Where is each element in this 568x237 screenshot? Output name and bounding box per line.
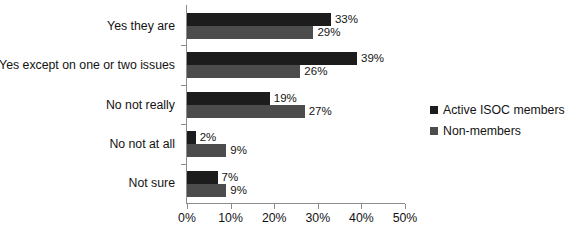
bar — [187, 92, 270, 105]
x-axis-tick — [187, 204, 188, 209]
y-axis-tick — [181, 164, 187, 165]
y-axis-label: Yes except on one or two issues — [0, 57, 175, 73]
x-axis-line — [186, 203, 405, 204]
y-axis-label: Yes they are — [107, 18, 175, 34]
bar — [187, 171, 218, 184]
bar-group: 2%9% — [187, 124, 405, 163]
legend-item: Non-members — [430, 120, 565, 141]
y-axis-label: Not sure — [129, 175, 175, 191]
bar-group: 39%26% — [187, 45, 405, 84]
bar — [187, 13, 331, 26]
bar — [187, 184, 226, 197]
x-axis-tick — [231, 204, 232, 209]
x-axis-tick — [405, 204, 406, 209]
bar-group: 33%29% — [187, 6, 405, 45]
bar-value-label: 9% — [230, 142, 247, 158]
x-axis-tick — [318, 204, 319, 209]
bar-group: 7%9% — [187, 164, 405, 203]
plot-area: 33%29%39%26%19%27%2%9%7%9% — [187, 6, 405, 203]
bar-value-label: 19% — [274, 90, 297, 106]
x-axis-label: 40% — [349, 211, 374, 225]
y-axis-tick — [181, 124, 187, 125]
chart-legend: Active ISOC membersNon-members — [430, 99, 565, 141]
y-axis-tick — [181, 85, 187, 86]
x-axis-label: 30% — [305, 211, 330, 225]
y-axis-tick — [181, 45, 187, 46]
y-axis-label: No not really — [106, 97, 175, 113]
bar — [187, 26, 313, 39]
legend-swatch-icon — [430, 127, 438, 135]
bar — [187, 65, 300, 78]
bar — [187, 52, 357, 65]
legend-label: Non-members — [443, 124, 521, 138]
x-axis-label: 20% — [262, 211, 287, 225]
bar-value-label: 39% — [361, 50, 384, 66]
bar-group: 19%27% — [187, 85, 405, 124]
bar — [187, 105, 305, 118]
bar-value-label: 26% — [304, 63, 327, 79]
bar-chart: Yes they areYes except on one or two iss… — [0, 0, 568, 237]
y-axis-category-labels: Yes they areYes except on one or two iss… — [0, 0, 181, 237]
bar — [187, 131, 196, 144]
bar-value-label: 2% — [200, 129, 217, 145]
x-axis-label: 50% — [393, 211, 418, 225]
bar-value-label: 9% — [230, 182, 247, 198]
legend-label: Active ISOC members — [443, 103, 565, 117]
bar — [187, 144, 226, 157]
bar-value-label: 29% — [317, 24, 340, 40]
bar-value-label: 27% — [309, 103, 332, 119]
x-axis-label: 10% — [218, 211, 243, 225]
x-axis-label: 0% — [178, 211, 196, 225]
x-axis-tick — [274, 204, 275, 209]
y-axis-label: No not at all — [109, 136, 175, 152]
legend-item: Active ISOC members — [430, 99, 565, 120]
legend-swatch-icon — [430, 106, 438, 114]
x-axis-tick — [361, 204, 362, 209]
